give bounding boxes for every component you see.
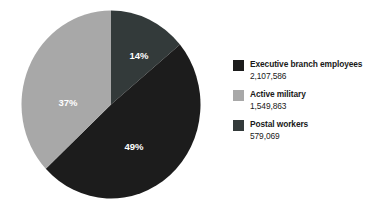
legend-text-active-military: Active military 1,549,863 <box>250 89 306 112</box>
chart-legend: Executive branch employees 2,107,586 Act… <box>233 59 371 142</box>
legend-item-postal-workers[interactable]: Postal workers 579,069 <box>233 119 371 142</box>
legend-label-postal-workers: Postal workers <box>250 119 308 130</box>
pie-svg: 14% 37% 49% <box>21 10 201 199</box>
legend-swatch-postal-workers <box>233 120 244 131</box>
legend-label-active-military: Active military <box>250 89 306 100</box>
legend-value-postal-workers: 579,069 <box>250 130 308 142</box>
pie-label-postal-workers: 14% <box>129 50 149 61</box>
legend-item-executive-branch-employees[interactable]: Executive branch employees 2,107,586 <box>233 59 371 82</box>
legend-value-active-military: 1,549,863 <box>250 100 306 112</box>
legend-text-executive-branch-employees: Executive branch employees 2,107,586 <box>250 59 362 82</box>
pie-slices <box>22 11 201 199</box>
legend-swatch-executive-branch-employees <box>233 60 244 71</box>
pie-label-executive-branch-employees: 49% <box>124 141 144 152</box>
pie-label-active-military: 37% <box>58 97 78 108</box>
legend-value-executive-branch-employees: 2,107,586 <box>250 70 362 82</box>
legend-label-executive-branch-employees: Executive branch employees <box>250 59 362 70</box>
pie-chart-figure: 14% 37% 49% Executive branch employees 2… <box>0 0 371 212</box>
legend-text-postal-workers: Postal workers 579,069 <box>250 119 308 142</box>
legend-item-active-military[interactable]: Active military 1,549,863 <box>233 89 371 112</box>
legend-swatch-active-military <box>233 90 244 101</box>
pie-chart-graphic: 14% 37% 49% <box>21 10 201 199</box>
